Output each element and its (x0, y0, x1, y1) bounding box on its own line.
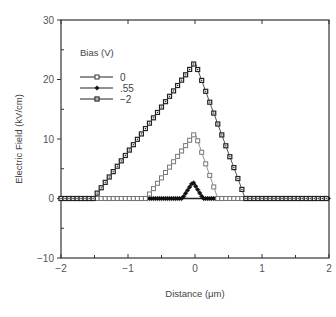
y-tick-label: 30 (43, 15, 55, 26)
open-square-marker (147, 192, 151, 196)
square-marker-dot (81, 198, 82, 199)
square-marker-dot (326, 198, 327, 199)
open-square-marker (200, 150, 204, 154)
legend: Bias (V)0.55−2 (80, 47, 134, 105)
open-square-marker (204, 162, 208, 166)
open-square-marker (95, 75, 99, 79)
open-square-marker (107, 197, 111, 201)
square-marker-dot (89, 198, 90, 199)
square-marker-dot (261, 198, 262, 199)
square-marker-dot (96, 98, 97, 99)
open-square-marker (119, 197, 123, 201)
square-marker-dot (93, 198, 94, 199)
open-square-marker (135, 197, 139, 201)
legend-entry: 0 (80, 72, 126, 83)
open-square-marker (164, 170, 168, 174)
square-marker-dot (153, 117, 154, 118)
square-marker-dot (189, 69, 190, 70)
open-square-marker (232, 197, 236, 201)
open-square-marker (155, 181, 159, 185)
square-marker-dot (157, 112, 158, 113)
square-marker-dot (221, 134, 222, 135)
open-square-marker (184, 144, 188, 148)
open-square-marker (228, 197, 232, 201)
square-marker-dot (181, 80, 182, 81)
square-marker-dot (318, 198, 319, 199)
open-square-marker (168, 165, 172, 169)
square-marker-dot (302, 198, 303, 199)
x-tick-label: −2 (55, 263, 67, 274)
square-marker-dot (310, 198, 311, 199)
square-marker-dot (169, 96, 170, 97)
square-marker-dot (68, 198, 69, 199)
data-series (59, 62, 331, 201)
square-marker-dot (137, 139, 138, 140)
square-marker-dot (249, 198, 250, 199)
electric-field-chart: −2−1012−100102030 Bias (V)0.55−2 Distanc… (0, 0, 336, 317)
square-marker-dot (149, 123, 150, 124)
y-tick-label: 10 (43, 134, 55, 145)
square-marker-dot (117, 166, 118, 167)
x-tick-label: −1 (122, 263, 134, 274)
open-square-marker (240, 197, 244, 201)
open-square-marker (180, 149, 184, 153)
legend-label: −2 (120, 94, 132, 105)
chart-canvas: −2−1012−100102030 Bias (V)0.55−2 Distanc… (0, 0, 336, 317)
square-marker-dot (193, 63, 194, 64)
y-axis-label: Electric Field (kV/cm) (13, 94, 24, 184)
square-marker-dot (201, 80, 202, 81)
square-marker-dot (173, 90, 174, 91)
square-marker-dot (125, 155, 126, 156)
y-tick-label: −10 (37, 253, 54, 264)
square-marker-dot (298, 198, 299, 199)
open-square-marker (151, 187, 155, 191)
open-square-marker (192, 133, 196, 137)
square-marker-dot (286, 198, 287, 199)
square-marker-dot (177, 85, 178, 86)
y-tick-label: 0 (48, 193, 54, 204)
square-marker-dot (165, 101, 166, 102)
open-square-marker (103, 197, 107, 201)
square-marker-dot (97, 193, 98, 194)
square-marker-dot (253, 198, 254, 199)
square-marker-dot (282, 198, 283, 199)
x-tick-label: 1 (259, 263, 265, 274)
open-square-marker (176, 154, 180, 158)
square-marker-dot (64, 198, 65, 199)
square-marker-dot (72, 198, 73, 199)
square-marker-dot (109, 176, 110, 177)
open-square-marker (123, 197, 127, 201)
square-marker-dot (245, 198, 246, 199)
open-square-marker (236, 197, 240, 201)
legend-title: Bias (V) (80, 47, 114, 58)
open-square-marker (216, 197, 220, 201)
square-marker-dot (217, 123, 218, 124)
open-square-marker (115, 197, 119, 201)
square-marker-dot (233, 167, 234, 168)
square-marker-dot (101, 187, 102, 188)
open-square-marker (220, 197, 224, 201)
square-marker-dot (322, 198, 323, 199)
legend-entry: .55 (80, 83, 134, 94)
square-marker-dot (113, 171, 114, 172)
square-marker-dot (121, 160, 122, 161)
open-square-marker (143, 197, 147, 201)
open-square-marker (127, 197, 131, 201)
square-marker-dot (306, 198, 307, 199)
square-marker-dot (225, 145, 226, 146)
open-square-marker (208, 173, 212, 177)
square-marker-dot (60, 198, 61, 199)
square-marker-dot (197, 69, 198, 70)
square-marker-dot (290, 198, 291, 199)
square-marker-dot (237, 178, 238, 179)
open-square-marker (196, 139, 200, 143)
square-marker-dot (141, 133, 142, 134)
square-marker-dot (265, 198, 266, 199)
square-marker-dot (213, 113, 214, 114)
x-tick-label: 2 (326, 263, 332, 274)
open-square-marker (131, 197, 135, 201)
open-square-marker (139, 197, 143, 201)
open-square-marker (99, 197, 103, 201)
square-marker-dot (294, 198, 295, 199)
square-marker-dot (185, 74, 186, 75)
